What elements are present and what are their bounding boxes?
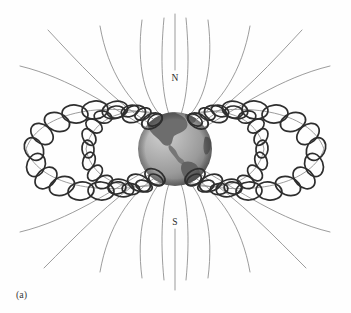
- field-line-open: [181, 18, 188, 114]
- magnetic-field-diagram: N S (a): [0, 0, 351, 313]
- labels-group: N S (a): [16, 72, 181, 301]
- north-pole-label: N: [171, 73, 178, 83]
- field-line-open: [162, 18, 169, 114]
- figure-container: N S (a): [0, 0, 351, 313]
- field-line-open: [203, 66, 330, 128]
- field-line-open: [140, 181, 162, 278]
- field-line-open: [188, 20, 210, 117]
- field-line-open: [181, 184, 188, 280]
- field-line-open: [188, 181, 210, 278]
- figure-caption: (a): [16, 289, 27, 301]
- field-line-open: [140, 20, 162, 117]
- field-line-open: [20, 66, 147, 128]
- field-line-open: [162, 184, 169, 280]
- south-pole-label: S: [172, 217, 177, 227]
